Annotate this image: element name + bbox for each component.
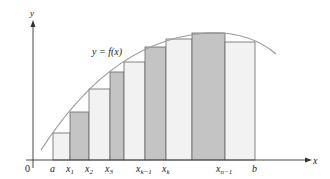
rect-7 xyxy=(166,39,192,160)
y-axis-label: y xyxy=(29,8,34,18)
tick-label-xn-1: xn−1 xyxy=(215,163,232,176)
tick-label-b: b xyxy=(252,163,257,174)
rect-6 xyxy=(145,47,166,160)
rect-4 xyxy=(110,72,124,160)
rect-8 xyxy=(192,33,225,160)
curve-label: y = f(x) xyxy=(91,46,123,58)
rectangles xyxy=(53,33,255,160)
x-axis-label: x xyxy=(312,155,318,166)
tick-label-xk-1: xk−1 xyxy=(135,163,152,176)
tick-label-x2: x2 xyxy=(84,163,93,176)
riemann-sum-diagram: x y 0 y = f(x) a x1 x2 x3 xk−1 xk xn−1 b xyxy=(0,0,330,179)
tick-label-x1: x1 xyxy=(65,163,74,176)
rect-1 xyxy=(53,133,70,160)
tick-labels: a x1 x2 x3 xk−1 xk xn−1 b xyxy=(50,163,257,176)
tick-label-x3: x3 xyxy=(104,163,113,176)
origin-label: 0 xyxy=(25,163,30,174)
x-axis-arrow-icon xyxy=(305,158,312,163)
rect-3 xyxy=(89,89,110,160)
y-axis-arrow-icon xyxy=(31,20,36,27)
rect-9 xyxy=(225,42,255,160)
tick-label-a: a xyxy=(50,163,55,174)
rect-5 xyxy=(124,62,145,160)
tick-label-xk: xk xyxy=(161,163,170,176)
rect-2 xyxy=(70,112,89,160)
